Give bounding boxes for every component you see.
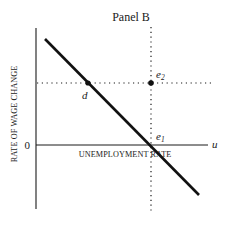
chart-title: Panel B — [112, 10, 150, 24]
point-d-label: d — [82, 89, 88, 101]
point-e2-label: e2 — [156, 68, 165, 82]
point-e1-label: e1 — [156, 130, 165, 144]
point-d-marker — [85, 80, 90, 85]
x-axis-symbol: u — [212, 138, 218, 150]
y-axis-label: RATE OF WAGE CHANGE — [10, 66, 19, 163]
phillips-curve-diagram: Panel B d e2 e1 0 u UNEMPLOYMENT RATE RA… — [0, 0, 233, 226]
x-axis-label: UNEMPLOYMENT RATE — [79, 150, 172, 159]
origin-label: 0 — [25, 139, 31, 151]
phillips-curve-line — [45, 39, 199, 195]
point-e2-marker — [148, 80, 154, 86]
